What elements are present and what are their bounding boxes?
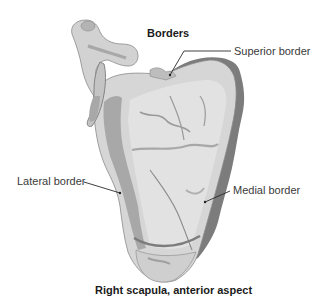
label-superior-border: Superior border bbox=[234, 45, 311, 57]
diagram-title: Borders bbox=[147, 27, 189, 39]
diagram-caption: Right scapula, anterior aspect bbox=[95, 284, 252, 296]
coracoid-tip bbox=[81, 21, 95, 31]
label-lateral-border: Lateral border bbox=[17, 175, 86, 187]
scapula-diagram: Borders Superior border Lateral border M… bbox=[0, 0, 321, 307]
leader-dot-superior bbox=[169, 74, 171, 76]
scapula-illustration bbox=[72, 20, 245, 282]
label-medial-border: Medial border bbox=[233, 184, 301, 196]
leader-dot-lateral bbox=[119, 192, 121, 194]
leader-dot-medial bbox=[204, 201, 206, 203]
